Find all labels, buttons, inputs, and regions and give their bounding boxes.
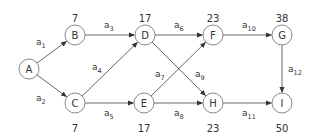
node-a: A: [19, 59, 39, 79]
node-label: F: [210, 30, 216, 41]
node-time: 23: [207, 13, 220, 24]
node-d: D17: [135, 13, 155, 46]
activity-network-diagram: a1a2a3a4a5a6a7a8a9a10a11a12 AB7C7D17E17F…: [0, 0, 314, 134]
node-label: I: [281, 98, 284, 109]
node-time: 7: [72, 123, 78, 134]
node-label: E: [141, 98, 147, 109]
arrow-line: [82, 42, 137, 96]
edge-label: a1: [36, 37, 46, 50]
edge-b-d: a3: [85, 20, 135, 35]
edge-label: a3: [104, 20, 114, 33]
node-label: A: [26, 64, 33, 75]
edge-c-e: a5: [85, 103, 134, 121]
node-time: 23: [207, 123, 220, 134]
edge-d-f: a6: [155, 20, 203, 35]
edge-a-c: a2: [36, 75, 67, 106]
node-label: C: [72, 98, 79, 109]
node-label: G: [278, 30, 286, 41]
edge-label: a5: [104, 108, 114, 121]
edge-g-i: a12: [282, 45, 302, 93]
edge-h-i: a11: [223, 103, 272, 121]
node-b: B7: [65, 13, 85, 46]
node-time: 50: [276, 123, 289, 134]
edge-c-d: a4: [82, 42, 137, 96]
edge-label: a9: [195, 69, 205, 82]
node-h: H23: [203, 93, 223, 134]
edge-label: a8: [174, 108, 184, 121]
node-time: 38: [276, 13, 289, 24]
node-label: D: [141, 30, 149, 41]
edge-label: a4: [92, 62, 102, 75]
node-time: 7: [72, 13, 78, 24]
edge-label: a6: [174, 20, 184, 33]
edge-label: a2: [36, 93, 46, 106]
node-f: F23: [203, 13, 223, 46]
edge-label: a12: [288, 64, 302, 77]
edge-a-b: a1: [36, 37, 67, 63]
edge-label: a7: [155, 69, 165, 82]
node-label: H: [209, 98, 217, 109]
edge-e-h: a8: [154, 103, 203, 121]
node-g: G38: [272, 13, 292, 46]
node-time: 17: [138, 123, 151, 134]
node-time: 17: [139, 13, 152, 24]
node-c: C7: [65, 93, 85, 134]
node-label: B: [72, 30, 79, 41]
edge-label: a11: [242, 108, 256, 121]
node-i: I50: [272, 93, 292, 134]
edge-f-g: a10: [223, 20, 272, 35]
edge-label: a10: [242, 20, 256, 33]
node-e: E17: [134, 93, 154, 134]
